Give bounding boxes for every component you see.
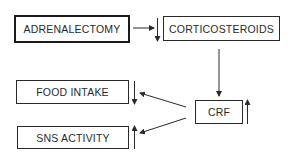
node-label: SNS ACTIVITY (36, 132, 110, 144)
node-crf: CRF (195, 100, 243, 124)
node-label: FOOD INTAKE (36, 86, 109, 98)
node-label: ADRENALECTOMY (24, 23, 121, 35)
node-food-intake: FOOD INTAKE (16, 80, 129, 104)
node-sns-activity: SNS ACTIVITY (17, 126, 129, 149)
node-label: CORTICOSTEROIDS (169, 23, 274, 35)
node-label: CRF (208, 106, 230, 118)
arrow-crf-to-food-intake (140, 93, 186, 107)
arrow-crf-to-sns-activity (140, 118, 186, 133)
node-corticosteroids: CORTICOSTEROIDS (163, 16, 280, 41)
node-adrenalectomy: ADRENALECTOMY (14, 15, 130, 43)
